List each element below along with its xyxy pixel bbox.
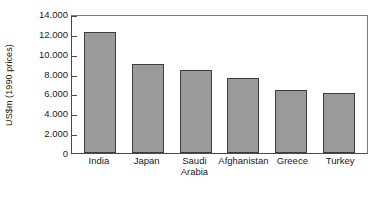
- bar[interactable]: [275, 90, 307, 153]
- bar-slot: [172, 16, 220, 153]
- x-axis-category-label-line: Turkey: [326, 155, 355, 166]
- y-axis-tick-label: 8.000: [44, 70, 68, 80]
- bar-slot: [315, 16, 363, 153]
- y-axis-tick-label: 0: [63, 149, 68, 159]
- bar-slot: [76, 16, 124, 153]
- bar[interactable]: [227, 78, 259, 153]
- bars-container: [72, 16, 367, 153]
- x-axis-category-label-line: Japan: [134, 155, 160, 166]
- bar[interactable]: [132, 64, 164, 153]
- bar[interactable]: [323, 93, 355, 153]
- y-axis-tick-label: 14.000: [39, 10, 68, 20]
- x-axis-category-label: Japan: [123, 156, 171, 196]
- bar-chart-figure: US$m (1990 prices) 02.0004.0006.0008.000…: [0, 0, 381, 198]
- y-axis-title-text: US$m (1990 prices): [4, 44, 14, 126]
- x-axis-category-label: SaudiArabia: [171, 156, 219, 196]
- y-axis-tick-labels: 02.0004.0006.0008.00010.00012.00014.000: [18, 15, 71, 154]
- x-axis-category-label-line: Arabia: [171, 167, 219, 178]
- y-axis-tick-label: 12.000: [39, 30, 68, 40]
- y-axis-tick-label: 2.000: [44, 129, 68, 139]
- bar-slot: [267, 16, 315, 153]
- x-axis-category-label-line: Saudi: [182, 155, 206, 166]
- x-axis-category-label-line: Greece: [277, 155, 308, 166]
- plot-area: [71, 15, 368, 154]
- bar[interactable]: [84, 32, 116, 153]
- bar-slot: [219, 16, 267, 153]
- x-axis-category-label-line: India: [89, 155, 110, 166]
- x-axis-category-label: Afghanistan: [218, 156, 268, 196]
- y-axis-tick-label: 10.000: [39, 50, 68, 60]
- bar[interactable]: [180, 70, 212, 153]
- y-axis-tick-label: 6.000: [44, 90, 68, 100]
- x-axis-category-label-line: Afghanistan: [218, 155, 268, 166]
- y-axis-tick-label: 4.000: [44, 110, 68, 120]
- x-axis-category-label: Greece: [268, 156, 316, 196]
- y-axis-title: US$m (1990 prices): [0, 0, 18, 170]
- x-axis-category-label: India: [75, 156, 123, 196]
- x-axis-category-label: Turkey: [316, 156, 364, 196]
- bar-slot: [124, 16, 172, 153]
- x-axis-category-labels: IndiaJapanSaudiArabiaAfghanistanGreeceTu…: [71, 156, 368, 196]
